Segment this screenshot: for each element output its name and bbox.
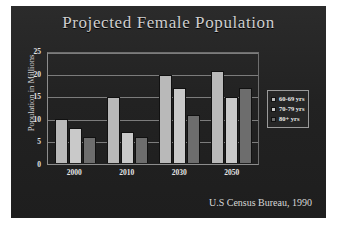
legend-swatch-icon: [271, 107, 276, 112]
gridline: [48, 164, 258, 165]
legend-item: 60-69 yrs: [271, 94, 304, 104]
x-axis-tick-label: 2030: [153, 168, 206, 177]
bar: [239, 88, 252, 163]
legend-swatch-icon: [271, 117, 276, 122]
chart-legend: 60-69 yrs70-79 yrs80+ yrs: [267, 90, 309, 128]
legend-item-label: 80+ yrs: [279, 115, 300, 123]
x-axis-tick-labels: 2000201020302050: [48, 168, 258, 177]
page-caption: [11, 219, 326, 229]
bar: [159, 75, 172, 163]
x-axis-tick-label: 2050: [206, 168, 259, 177]
y-axis-tick-label: 15: [34, 93, 42, 101]
page-title: Projected Female Population: [11, 13, 326, 33]
bar: [55, 119, 68, 163]
x-axis-tick-label: 2000: [48, 168, 101, 177]
bar: [107, 97, 120, 163]
y-axis-tick-label: 20: [34, 71, 42, 79]
legend-item: 70-79 yrs: [271, 104, 304, 114]
presentation-slide: Projected Female Population Population i…: [11, 6, 326, 218]
legend-swatch-icon: [271, 97, 276, 102]
bar: [225, 97, 238, 163]
bar: [83, 137, 96, 163]
bar-group: [49, 53, 101, 163]
y-axis-tick-label: 0: [37, 161, 41, 169]
y-axis-tick-labels: 0510152025: [11, 52, 45, 165]
bar-chart: Population in Millions 0510152025 200020…: [11, 38, 326, 198]
bar: [135, 137, 148, 163]
y-axis-tick-label: 25: [34, 48, 42, 56]
bar: [187, 115, 200, 163]
source-attribution: U.S Census Bureau, 1990: [209, 197, 312, 209]
bar-group: [101, 53, 153, 163]
legend-item-label: 60-69 yrs: [279, 95, 304, 103]
y-axis-tick-label: 10: [34, 116, 42, 124]
legend-item: 80+ yrs: [271, 114, 304, 124]
bar-group: [153, 53, 205, 163]
bar: [211, 71, 224, 163]
bar: [173, 88, 186, 163]
bar-group: [205, 53, 257, 163]
bar-groups: [49, 53, 257, 163]
legend-item-label: 70-79 yrs: [279, 105, 304, 113]
y-axis-tick-label: 5: [37, 138, 41, 146]
bar: [121, 132, 134, 163]
x-axis-tick-label: 2010: [101, 168, 154, 177]
bar: [69, 128, 82, 163]
plot-area: [47, 52, 259, 165]
page: Projected Female Population Population i…: [0, 0, 337, 231]
